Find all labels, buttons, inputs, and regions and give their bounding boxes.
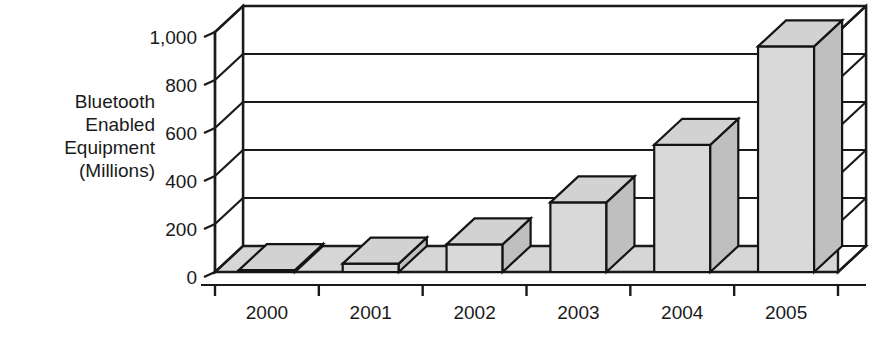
- x-tick-label: 2002: [453, 302, 495, 323]
- x-tick-label: 2003: [557, 302, 599, 323]
- x-axis-group: 200020012002200320042005: [201, 285, 866, 323]
- bar-side-face: [814, 20, 842, 272]
- y-axis-title-line-4: (Millions): [79, 160, 155, 181]
- y-axis-title-line-3: Equipment: [64, 137, 156, 158]
- y-axis-tick-labels: 02004006008001,000: [149, 27, 197, 288]
- y-tick-label: 400: [165, 171, 197, 192]
- y-axis-title: Bluetooth Enabled Equipment (Millions): [64, 91, 156, 181]
- chart-canvas: Bluetooth Enabled Equipment (Millions) 0…: [0, 0, 894, 338]
- x-tick-label: 2004: [661, 302, 704, 323]
- y-tick-label: 600: [165, 123, 197, 144]
- y-tick-label: 0: [186, 267, 197, 288]
- bar-2003: [550, 176, 634, 272]
- y-tick-mark: [204, 32, 215, 37]
- x-tick-label: 2000: [246, 302, 288, 323]
- y-tick-mark: [204, 272, 215, 277]
- bar-2005: [758, 20, 842, 272]
- y-tick-label: 800: [165, 75, 197, 96]
- y-tick-label: 200: [165, 219, 197, 240]
- y-tick-mark: [204, 224, 215, 229]
- y-axis-title-line-1: Bluetooth: [75, 91, 155, 112]
- y-tick-mark: [204, 80, 215, 85]
- bluetooth-equipment-bar-chart: Bluetooth Enabled Equipment (Millions) 0…: [0, 0, 894, 338]
- y-axis-title-line-2: Enabled: [85, 114, 155, 135]
- bar-front-face: [447, 244, 503, 272]
- y-tick-mark: [204, 128, 215, 133]
- y-tick-mark: [204, 176, 215, 181]
- bar-front-face: [550, 202, 606, 272]
- bar-front-face: [758, 46, 814, 272]
- x-tick-label: 2001: [350, 302, 392, 323]
- x-tick-label: 2005: [765, 302, 807, 323]
- y-tick-label: 1,000: [149, 27, 197, 48]
- bar-2004: [654, 119, 738, 272]
- bar-front-face: [343, 264, 399, 272]
- bar-front-face: [654, 145, 710, 272]
- chart-left-wall: [215, 6, 243, 272]
